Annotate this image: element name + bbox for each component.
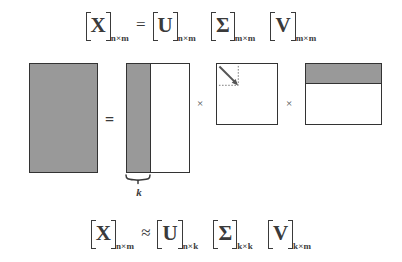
equation-bottom-term-x: Xn×m: [91, 222, 134, 246]
subscript-x: n×m: [116, 241, 134, 251]
matrix-block-v: [305, 63, 382, 125]
bracket-u: U: [153, 14, 178, 38]
bracket-v: V: [270, 14, 295, 38]
subscript-u: n×k: [183, 241, 199, 251]
bracket-x: X: [91, 222, 116, 246]
equation-top-relation: =: [133, 15, 149, 35]
sigma-diagonal-arrow-icon: [217, 64, 277, 124]
bracket-u: U: [157, 222, 182, 246]
bracket-v: V: [268, 222, 293, 246]
matrix-block-sigma: [216, 63, 278, 125]
equation-bottom-relation: ≈: [138, 223, 153, 243]
equation-bottom-term-u: Un×k: [157, 222, 198, 246]
subscript-v: k×m: [293, 241, 311, 251]
diagram-multiply-sign-1: ×: [197, 98, 203, 109]
brace-k-icon: [125, 174, 153, 185]
matrix-block-x: [29, 63, 98, 173]
bracket-x: X: [86, 14, 111, 38]
equation-top: Xn×m = Un×m Σm×m Vm×m: [0, 14, 402, 38]
subscript-v: m×m: [296, 33, 317, 43]
svd-figure: Xn×m = Un×m Σm×m Vm×m = k × × Xn×m ≈ Un×…: [0, 0, 402, 262]
bracket-sigma: Σ: [211, 14, 235, 38]
brace-label-k: k: [124, 186, 154, 198]
matrix-block-u: [126, 63, 190, 173]
equation-top-term-sigma: Σm×m: [211, 14, 255, 38]
subscript-sigma: k×k: [237, 241, 253, 251]
matrix-v-k-rows: [306, 64, 381, 84]
diagram-equals-sign: =: [105, 112, 114, 128]
matrix-u-k-columns: [127, 64, 151, 172]
subscript-u: n×m: [178, 33, 196, 43]
subscript-x: n×m: [111, 33, 129, 43]
diagram-multiply-sign-2: ×: [286, 98, 292, 109]
equation-top-term-v: Vm×m: [270, 14, 316, 38]
bracket-sigma: Σ: [213, 222, 237, 246]
equation-top-term-u: Un×m: [153, 14, 196, 38]
subscript-sigma: m×m: [235, 33, 256, 43]
equation-bottom-term-sigma: Σk×k: [213, 222, 252, 246]
equation-bottom: Xn×m ≈ Un×k Σk×k Vk×m: [0, 222, 402, 246]
equation-top-term-x: Xn×m: [86, 14, 129, 38]
equation-bottom-term-v: Vk×m: [268, 222, 311, 246]
